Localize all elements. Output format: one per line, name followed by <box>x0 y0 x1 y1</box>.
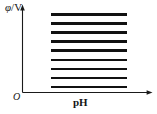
x-axis-arrowhead-icon <box>147 90 153 94</box>
phi-ph-chart-figure: φ/V pH O <box>0 0 157 114</box>
y-axis <box>20 5 25 93</box>
data-line-group <box>51 15 126 87</box>
origin-label: O <box>13 92 20 102</box>
y-axis-unit: /V <box>11 1 22 13</box>
x-axis <box>23 90 153 94</box>
y-axis-label: φ/V <box>5 2 22 13</box>
x-axis-label: pH <box>73 97 88 108</box>
